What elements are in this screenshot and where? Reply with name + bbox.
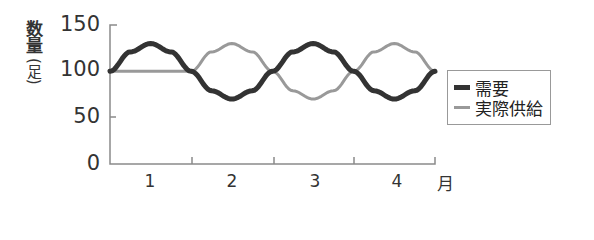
- x-tick-4: 4: [387, 171, 407, 191]
- x-tick-2: 2: [222, 171, 242, 191]
- legend-swatch-demand: [454, 85, 470, 90]
- x-tick-3: 3: [305, 171, 325, 191]
- x-tick-1: 1: [140, 171, 160, 191]
- legend-item-supply: 実際供給: [454, 97, 544, 117]
- legend-swatch-supply: [454, 106, 470, 109]
- series-layer: [110, 44, 435, 100]
- legend-label-supply: 実際供給: [475, 95, 543, 120]
- legend: 需要 実際供給: [447, 70, 551, 125]
- x-axis-label: 月: [437, 170, 454, 195]
